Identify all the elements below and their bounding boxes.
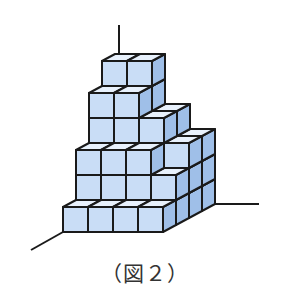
cube <box>138 200 176 232</box>
cube <box>127 54 165 86</box>
cube-stack <box>63 54 215 232</box>
figure-caption: （図２） <box>0 257 289 287</box>
left-axis <box>31 232 63 250</box>
cube <box>126 143 164 175</box>
cube <box>114 86 152 118</box>
